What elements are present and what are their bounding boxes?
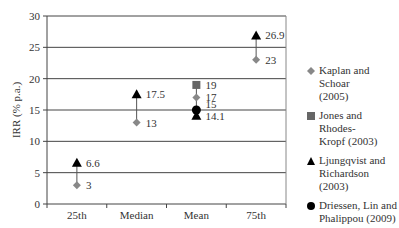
triangle-marker: [132, 89, 142, 98]
triangle-marker: [251, 30, 261, 39]
circle-icon: [306, 201, 316, 211]
x-tick-label: Mean: [184, 209, 210, 221]
circle-marker: [192, 106, 201, 115]
y-tick-label: 5: [35, 167, 41, 179]
data-label: 3: [86, 179, 92, 191]
data-label: 14.1: [205, 110, 224, 122]
legend-item-kaplan: Kaplan and Schoar (2005): [306, 64, 399, 103]
x-tick-label: 25th: [67, 209, 87, 221]
data-label: 26.9: [265, 29, 285, 41]
triangle-icon: [306, 156, 316, 166]
diamond-marker: [133, 119, 141, 127]
data-label: 13: [146, 117, 158, 129]
y-tick-label: 30: [29, 10, 41, 22]
x-tick-label: Median: [120, 209, 154, 221]
data-label: 15: [205, 98, 217, 110]
square-marker: [192, 81, 200, 89]
x-tick-label: 75th: [246, 209, 266, 221]
diamond-marker: [73, 181, 81, 189]
square-icon: [306, 111, 316, 121]
diamond-marker: [192, 93, 200, 101]
y-tick-label: 0: [35, 198, 41, 210]
data-label: 23: [265, 54, 277, 66]
y-tick-label: 15: [29, 104, 41, 116]
data-label: 6.6: [86, 157, 100, 169]
data-label: 17.5: [146, 88, 166, 100]
y-tick-label: 10: [29, 135, 41, 147]
data-label: 19: [205, 79, 217, 91]
y-tick-label: 20: [29, 73, 41, 85]
diamond-icon: [306, 66, 316, 76]
triangle-marker: [72, 158, 82, 167]
legend-item-driessen: Driessen, Lin and Phalippou (2009): [306, 199, 399, 225]
legend-item-ljungqvist: Ljungqvist and Richardson (2003): [306, 154, 399, 193]
diamond-marker: [252, 56, 260, 64]
y-axis-label: IRR (% p.a.): [10, 82, 23, 139]
legend: Kaplan and Schoar (2005) Jones and Rhode…: [306, 64, 399, 228]
y-tick-label: 25: [29, 41, 41, 53]
legend-item-jones: Jones and Rhodes- Kropf (2003): [306, 109, 399, 148]
